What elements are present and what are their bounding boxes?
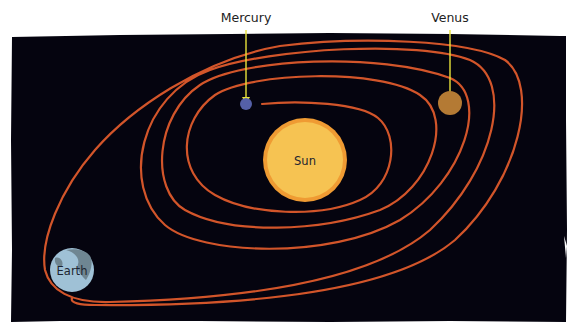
mercury-planet	[240, 98, 252, 110]
sun: Sun	[263, 118, 347, 202]
sun-label: Sun	[294, 154, 316, 168]
venus-label: Venus	[431, 10, 469, 25]
earth: Earth	[50, 248, 94, 292]
mercury-label: Mercury	[221, 10, 272, 25]
venus-planet	[438, 91, 462, 115]
earth-label: Earth	[57, 264, 88, 278]
solar-system-diagram: Sun Earth Mercury Venus	[0, 0, 579, 325]
